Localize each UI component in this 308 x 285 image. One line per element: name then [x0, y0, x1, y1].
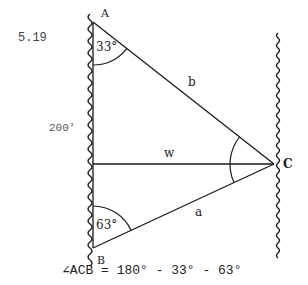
- baseline-distance-label: 200': [49, 122, 75, 134]
- side-a-label: a: [195, 206, 202, 218]
- triangulation-diagram: 5.19 200' A B C 33° 63° b w a ∠ACB = 180…: [0, 0, 308, 285]
- side-b: [93, 22, 274, 164]
- right-riverbank: [277, 33, 280, 258]
- side-w-label: w: [164, 147, 174, 159]
- left-riverbank: [88, 14, 92, 266]
- vertex-a-label: A: [101, 8, 109, 20]
- problem-number: 5.19: [18, 32, 47, 44]
- angle-arc-c: [230, 137, 239, 183]
- angle-a-label: 33°: [96, 41, 117, 53]
- vertex-c-label: C: [283, 158, 293, 170]
- side-a: [93, 164, 274, 248]
- side-b-label: b: [188, 76, 196, 88]
- angle-acb-formula: ∠ACB = 180° - 33° - 63°: [62, 264, 241, 278]
- angle-b-label: 63°: [96, 219, 117, 231]
